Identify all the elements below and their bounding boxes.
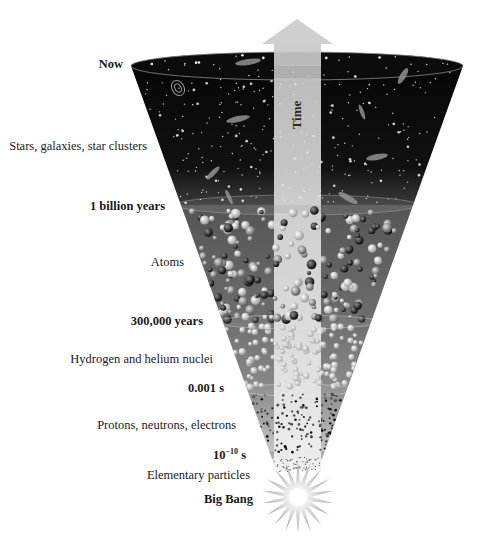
universe-timeline-diagram: Time Now 1 billion years 300,000 years 0… [0,0,493,541]
epoch-label-1-billion-years: 1 billion years [90,199,165,213]
epoch-exponent: −10 [225,447,238,456]
era-label-nuclei: Hydrogen and helium nuclei [70,352,213,366]
epoch-label-now: Now [99,57,123,71]
epoch-label-0001-s: 0.001 s [188,381,224,395]
big-bang-starburst-icon [263,461,334,533]
time-arrow-label: Time [289,101,305,130]
era-label-atoms: Atoms [151,255,184,269]
epoch-label-300000-years: 300,000 years [131,314,203,328]
era-label-elementary: Elementary particles [147,468,250,482]
epoch-label-10e-10-s: 10−10 s [213,448,246,462]
era-label-protons: Protons, neutrons, electrons [97,418,236,432]
epoch-label-big-bang: Big Bang [204,492,253,506]
epoch-unit: s [238,448,246,462]
epoch-base: 10 [213,448,226,462]
era-label-stars: Stars, galaxies, star clusters [9,139,147,153]
cone-illustration [0,0,493,541]
